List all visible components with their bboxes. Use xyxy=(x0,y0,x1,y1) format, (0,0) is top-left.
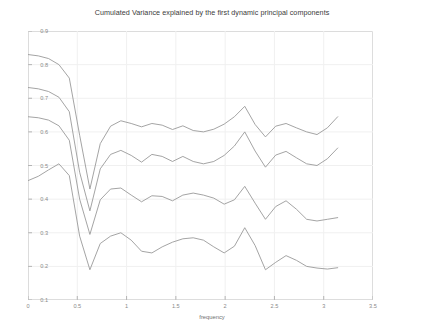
y-tick-label: 0.8 xyxy=(8,62,48,68)
y-tick-label: 0.6 xyxy=(8,129,48,135)
x-tick-label: 2.5 xyxy=(259,303,289,309)
y-tick-label: 0.4 xyxy=(8,196,48,202)
x-tick-label: 1 xyxy=(112,303,142,309)
data-series-group xyxy=(28,55,338,270)
y-tick-label: 0.7 xyxy=(8,95,48,101)
plot-area xyxy=(28,31,373,300)
y-tick-label: 0.3 xyxy=(8,230,48,236)
figure-canvas: Cumulated Variance explained by the firs… xyxy=(0,0,424,334)
y-tick-label: 0.2 xyxy=(8,263,48,269)
x-tick-label: 3.5 xyxy=(358,303,388,309)
series-line-4 xyxy=(28,164,338,270)
y-tick-label: 0.9 xyxy=(8,28,48,34)
x-tick-label: 0.5 xyxy=(62,303,92,309)
series-line-3 xyxy=(28,117,338,235)
y-tick-label: 0.5 xyxy=(8,163,48,169)
x-tick-label: 3 xyxy=(309,303,339,309)
x-tick-label: 2 xyxy=(210,303,240,309)
gridlines xyxy=(28,31,373,300)
x-axis-label: frequency xyxy=(0,314,424,320)
x-tick-label: 0 xyxy=(13,303,43,309)
x-tick-label: 1.5 xyxy=(161,303,191,309)
chart-title: Cumulated Variance explained by the firs… xyxy=(0,8,424,17)
